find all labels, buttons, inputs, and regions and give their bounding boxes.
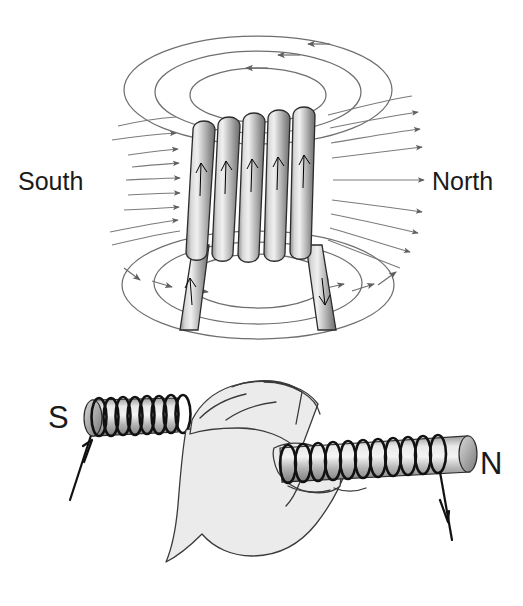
south-pole-label: South [18,167,83,195]
rod-cap-right [459,436,477,472]
physics-diagram: South North [0,0,523,606]
coil-turn-5 [290,107,315,259]
north-pole-label: North [432,167,493,195]
south-pole-label-short: S [48,400,69,435]
solenoid-rod-left [84,395,191,436]
north-pole-label-short: N [480,446,502,481]
solenoid-coil [186,107,315,262]
